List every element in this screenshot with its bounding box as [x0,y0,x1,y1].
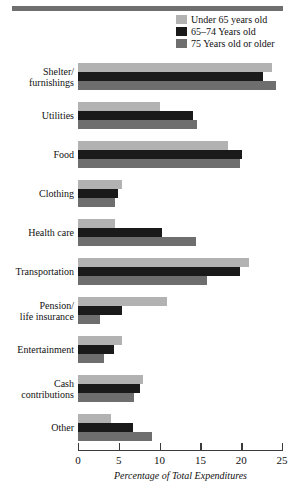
x-axis-title: Percentage of Total Expenditures [78,470,283,481]
x-axis-tick-label: 25 [277,455,288,466]
bar [78,81,276,90]
category-label-line: Pension/ [2,300,74,311]
bar [78,414,111,423]
category-label: Clothing [2,188,74,199]
bar [78,198,115,207]
bar-group [78,414,282,441]
bar [78,228,162,237]
bar [78,258,249,267]
category-label-line: Transportation [2,266,74,277]
bar [78,423,133,432]
bar [78,102,160,111]
x-axis-tick-label: 10 [154,455,165,466]
category-label-line: Entertainment [2,344,74,355]
bar [78,267,240,276]
bar [78,150,242,159]
category-label: Transportation [2,266,74,277]
bar-group [78,180,282,207]
bar [78,219,115,228]
category-label: Food [2,149,74,160]
bar-group [78,63,282,90]
category-label: Shelter/furnishings [2,66,74,88]
category-label: Utilities [2,110,74,121]
bar-group [78,219,282,246]
x-axis-line [78,450,283,451]
bar [78,393,134,402]
x-axis-tick [119,443,120,451]
legend-item: 75 Years old or older [176,38,275,49]
bar [78,111,193,120]
category-label-line: Utilities [2,110,74,121]
category-label-line: Cash [2,378,74,389]
x-axis-tick [282,443,283,451]
x-axis-tick-label: 15 [195,455,206,466]
category-label-line: Other [2,422,74,433]
bar [78,315,100,324]
bar [78,276,207,285]
legend-item-label: 65–74 Years old [191,27,256,37]
x-axis-tick [200,443,201,451]
bar [78,189,118,198]
bar [78,345,114,354]
legend-swatch-icon [176,39,187,48]
bar-group [78,336,282,363]
legend-swatch-icon [176,15,187,24]
category-label-line: furnishings [2,77,74,88]
category-label-line: Clothing [2,188,74,199]
legend-item-label: Under 65 years old [191,15,267,25]
bar [78,336,122,345]
x-axis-tick-label: 20 [236,455,247,466]
bar-group [78,258,282,285]
bar [78,297,167,306]
bar [78,306,122,315]
bar [78,120,197,129]
legend-item-label: 75 Years old or older [191,39,275,49]
category-label: Entertainment [2,344,74,355]
x-axis-tick-label: 5 [116,455,122,466]
category-label: Other [2,422,74,433]
bar-group [78,102,282,129]
x-axis-tick [160,443,161,451]
bar [78,159,240,168]
bar [78,63,272,72]
category-label: Health care [2,227,74,238]
legend-item: 65–74 Years old [176,26,275,37]
bar [78,432,152,441]
bar [78,375,143,384]
bar-group [78,297,282,324]
x-axis-tick [78,443,79,451]
category-label-line: Food [2,149,74,160]
category-axis-labels: Shelter/furnishingsUtilitiesFoodClothing… [0,60,74,450]
bar [78,72,263,81]
bar-group [78,375,282,402]
bar [78,384,140,393]
chart-legend: Under 65 years old65–74 Years old75 Year… [176,14,275,49]
category-label: Cashcontributions [2,378,74,400]
bar-chart: Under 65 years old65–74 Years old75 Year… [0,0,295,495]
bar [78,237,196,246]
legend-swatch-icon [176,27,187,36]
plot-area [78,60,282,450]
category-label-line: life insurance [2,311,74,322]
bar [78,354,104,363]
category-label: Pension/life insurance [2,300,74,322]
bar [78,180,122,189]
x-axis-tick [241,443,242,451]
category-label-line: Health care [2,227,74,238]
bar-group [78,141,282,168]
legend-item: Under 65 years old [176,14,275,25]
bar [78,141,228,150]
x-axis-tick-label: 0 [75,455,81,466]
category-label-line: contributions [2,389,74,400]
top-divider-rule [12,6,283,11]
category-label-line: Shelter/ [2,66,74,77]
